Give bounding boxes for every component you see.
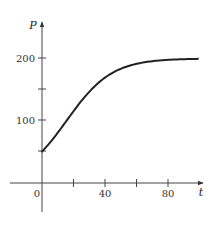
- x-axis-label: t: [199, 186, 204, 199]
- x-tick-label-40: 40: [99, 188, 112, 199]
- logistic-curve: [42, 59, 198, 152]
- logistic-growth-chart: 200 100 0 40 80 P t: [0, 0, 215, 226]
- origin-label: 0: [34, 188, 40, 199]
- y-axis-label: P: [28, 19, 37, 32]
- y-tick-label-100: 100: [16, 115, 35, 126]
- x-tick-label-80: 80: [162, 188, 175, 199]
- y-tick-label-200: 200: [16, 53, 35, 64]
